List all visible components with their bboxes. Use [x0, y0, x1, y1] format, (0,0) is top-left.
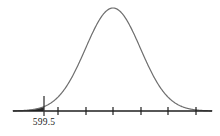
plot-background	[0, 0, 220, 136]
normal-curve-figure: 599.5	[0, 0, 220, 136]
normal-curve-plot	[0, 0, 220, 136]
